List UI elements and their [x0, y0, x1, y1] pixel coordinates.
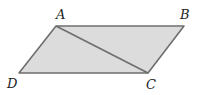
- vertex-label-b: B: [179, 7, 190, 22]
- vertex-label-a: A: [55, 7, 65, 22]
- vertex-label-d: D: [6, 76, 18, 91]
- parallelogram-diagram: A B C D: [0, 0, 198, 95]
- vertex-label-c: C: [146, 77, 156, 92]
